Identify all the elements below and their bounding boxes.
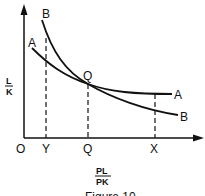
x-axis-arrow-icon [193, 135, 204, 142]
x-tick-q: Q [83, 142, 92, 156]
y-axis-denominator: K [6, 87, 13, 97]
intersection-label: Q [83, 69, 92, 83]
curve-a [32, 48, 172, 94]
curve-b-end-label: B [180, 110, 188, 124]
figure-caption: Figure 10 [85, 190, 136, 196]
y-axis-arrow-icon [21, 4, 28, 15]
curve-a-end-label: A [174, 88, 182, 102]
curve-b [42, 20, 178, 115]
y-axis-numerator: L [6, 76, 12, 86]
x-tick-x: X [150, 142, 158, 156]
x-axis-numerator: PL [96, 166, 108, 176]
diagram-canvas: B A A B Q O Y Q X L K PL PK Figure 10 [0, 0, 205, 196]
curve-a-start-label: A [28, 36, 36, 50]
curve-b-start-label: B [42, 7, 50, 21]
x-axis-denominator: PK [96, 177, 109, 187]
x-tick-y: Y [42, 142, 50, 156]
origin-label: O [16, 142, 25, 156]
